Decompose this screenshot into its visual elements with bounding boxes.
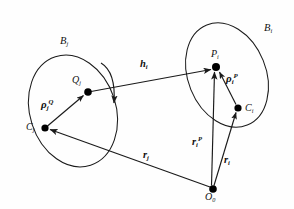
point-marker-ci xyxy=(234,104,241,111)
point-marker-qj xyxy=(84,88,92,96)
label-vector-ri-p: riP xyxy=(192,137,202,148)
label-vector-rho-j-q: ρjQ xyxy=(41,99,54,110)
vector-ri-p xyxy=(212,72,215,186)
point-marker-cj xyxy=(41,124,48,131)
label-vector-hi: hi xyxy=(140,59,148,70)
figure-canvas: Bj Bi Cj Qj Pi Ci O0 hi ρjQ ρiP rj ri ri… xyxy=(0,0,294,209)
label-vector-rho-i-p: ρiP xyxy=(226,73,238,84)
vector-ri xyxy=(214,113,236,186)
body-outline-bj xyxy=(14,44,131,179)
vector-hi xyxy=(91,70,211,92)
vector-rj xyxy=(50,130,210,188)
label-point-qj: Qj xyxy=(72,75,81,85)
label-point-ci: Ci xyxy=(245,103,253,113)
label-point-cj: Cj xyxy=(26,122,34,132)
label-point-o0: O0 xyxy=(205,192,215,202)
label-vector-ri: ri xyxy=(224,155,230,166)
label-point-pi: Pi xyxy=(211,49,219,59)
label-vector-rj: rj xyxy=(143,150,149,161)
point-marker-pi xyxy=(212,63,220,71)
label-body-bi: Bi xyxy=(264,23,272,34)
label-body-bj: Bj xyxy=(60,36,68,47)
